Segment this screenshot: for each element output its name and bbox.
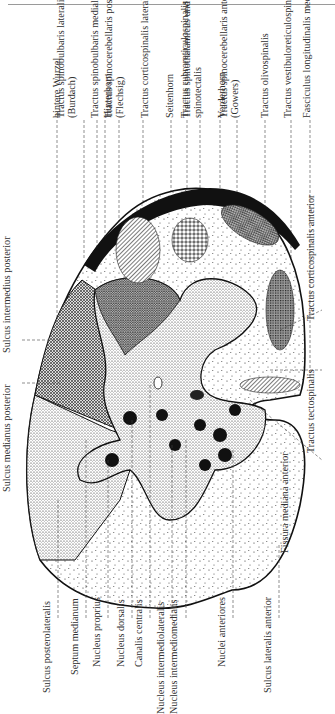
tractus-corticospinalis-anterior-area [266, 270, 294, 350]
label-sulcus-medianus-posterior: Sulcus medianus posterior [1, 384, 12, 492]
tractus-tectospinalis-area [240, 377, 300, 393]
label-canalis-centralis: Canalis centralis [133, 599, 144, 667]
label-nucleus-intermediomedialis: Nucleus intermediomedialis [168, 599, 179, 714]
label-tractus-vestibuloreticulospinalis: Tractus vestibuloreticulospinalis [282, 0, 293, 118]
canalis-centralis-shape [154, 377, 162, 389]
label-tractus-olivospinalis: Tractus olivospinalis [259, 33, 270, 118]
label-nucleus-dorsalis: Nucleus dorsalis [115, 599, 126, 667]
label-tractus-spinobulbaris-medialis: Tractus spinobulbaris medialis (Goll) [89, 0, 100, 118]
label-tractus-spinothalamicus: Tractus spinothalamicus undspinotectalis [181, 1, 203, 118]
tractus-corticospinalis-lateralis-area [116, 217, 160, 283]
label-tractus-spinobulbaris-lateralis: Tractus spinobulbaris lateralis(Burdach) [55, 0, 77, 118]
label-fissura-mediana-anterior: Fissura mediana anterior [279, 452, 290, 553]
label-fasciculus-longitudinalis-medialis: Fasciculus longitudinalis medialis [301, 0, 312, 118]
label-septum-medianum: Septum medianum [69, 598, 80, 675]
label-sulcus-lateralis-anterior: Sulcus lateralis anterior [262, 597, 273, 693]
label-sulcus-posterolateralis: Sulcus posterolateralis [41, 601, 52, 693]
label-tractus-spinocerebellaris-anterior: Tractus spinocerebellaris anterior(Gower… [218, 0, 240, 118]
label-tractus-spinocerebellaris-posterior: Tractus spinocerebellaris posterior(Flec… [103, 0, 125, 118]
nucleus-dark [190, 390, 204, 400]
tractus-rubroreticulospinalis-area [172, 218, 208, 262]
label-seitenhorn: Seitenhorn [164, 74, 175, 118]
label-tractus-corticospinalis-lateralis: Tractus corticospinalis lateralis [139, 0, 150, 118]
label-nucleus-proprius: Nucleus proprius [91, 597, 102, 667]
label-sulcus-intermedius-posterior: Sulcus intermedius posterior [1, 236, 12, 353]
label-tractus-tectospinalis: Tractus tectospinalis [305, 369, 316, 453]
label-nucleus-intermediolateralis: Nucleus intermediolateralis [155, 602, 166, 714]
label-tractus-corticospinalis-anterior: Tractus corticospinalis anterior [305, 195, 316, 321]
label-nuclei-anteriores: Nuclei anteriores [216, 597, 227, 667]
